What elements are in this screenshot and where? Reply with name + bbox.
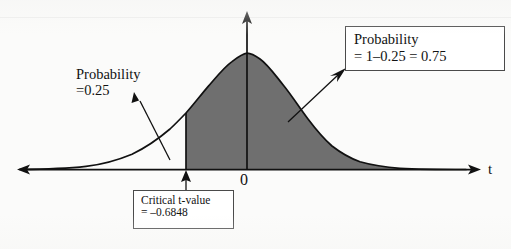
left-probability-line1: Probability [76, 66, 140, 82]
right-probability-leader-line [288, 75, 338, 122]
right-probability-line1: Probability [354, 31, 504, 48]
critical-value-callout-box: Critical t-value = –0.6848 [133, 190, 234, 229]
left-probability-label: Probability =0.25 [76, 66, 140, 98]
right-probability-line2: = 1–0.25 = 0.75 [354, 48, 504, 65]
x-axis-label: t [488, 161, 492, 178]
right-probability-callout-box: Probability = 1–0.25 = 0.75 [345, 26, 505, 71]
figure-canvas: Probability =0.25 Probability = 1–0.25 =… [0, 0, 511, 249]
left-probability-line2: =0.25 [76, 82, 140, 98]
critical-value-line2: = –0.6848 [141, 206, 233, 218]
critical-value-line1: Critical t-value [141, 194, 233, 206]
axis-origin-label: 0 [240, 171, 248, 189]
left-probability-leader-line [140, 101, 170, 160]
